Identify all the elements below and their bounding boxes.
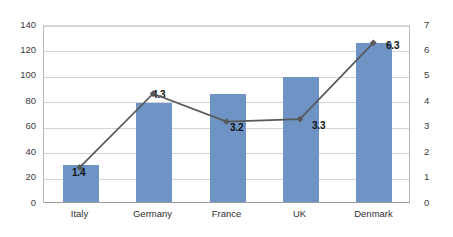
line-point-label: 4.3 [152,89,165,100]
bar-france [210,94,246,202]
bar-uk [283,77,319,202]
line-point-label: 1.4 [72,167,85,178]
y-axis-right-tick: 2 [424,147,453,157]
y-axis-right-tick: 0 [424,198,453,208]
line-point-label: 3.3 [312,120,325,131]
bar-germany [136,103,172,202]
chart-container: 140 120 100 80 60 40 20 0 7 6 5 4 3 2 1 … [0,0,453,237]
y-axis-right-tick: 3 [424,121,453,131]
line-point-label: 3.2 [230,122,243,133]
x-axis-category-label: France [190,208,263,219]
gridline [44,51,409,52]
x-axis-category-label: Italy [43,208,116,219]
y-axis-left-tick: 40 [4,147,36,157]
y-axis-left-tick: 100 [4,70,36,80]
line-point-label: 6.3 [386,40,399,51]
y-axis-right-tick: 1 [424,172,453,182]
y-axis-right-tick: 5 [424,70,453,80]
y-axis-left-tick: 60 [4,121,36,131]
gridline [44,26,409,27]
plot-area [43,25,410,203]
y-axis-right-tick: 4 [424,96,453,106]
y-axis-left-tick: 140 [4,20,36,30]
x-axis-category-label: UK [263,208,336,219]
y-axis-right-tick: 6 [424,45,453,55]
y-axis-left-tick: 0 [4,198,36,208]
x-axis-category-label: Denmark [337,208,410,219]
x-axis-category-label: Germany [116,208,189,219]
gridline [44,77,409,78]
y-axis-left-tick: 120 [4,45,36,55]
y-axis-left-tick: 20 [4,172,36,182]
y-axis-left-tick: 80 [4,96,36,106]
y-axis-right-tick: 7 [424,20,453,30]
bar-denmark [356,43,392,202]
